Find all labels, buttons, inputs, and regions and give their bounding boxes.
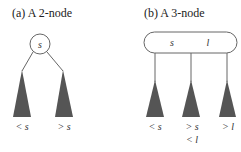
left-edge	[22, 52, 33, 71]
three-node-key-s: s	[170, 37, 174, 48]
left-subtree-triangle	[13, 70, 31, 117]
right-subtree-label: > l	[222, 121, 234, 132]
right-edge	[47, 52, 63, 71]
middle-subtree-triangle	[182, 80, 200, 117]
panel-a-2-node: (a) A 2-node s < s > s	[12, 6, 73, 132]
middle-subtree-label-2: < l	[186, 134, 198, 145]
two-node-key: s	[38, 39, 42, 50]
left-subtree-label: < s	[148, 121, 161, 132]
panel-a-title: (a) A 2-node	[12, 6, 72, 20]
three-node-key-l: l	[207, 37, 210, 48]
panel-b-title: (b) A 3-node	[144, 6, 205, 20]
middle-subtree-label-1: > s	[185, 121, 198, 132]
left-subtree-label: < s	[15, 121, 28, 132]
right-subtree-triangle	[219, 80, 236, 117]
right-subtree-triangle	[55, 70, 73, 117]
left-subtree-triangle	[146, 80, 164, 117]
two-three-tree-diagram: (a) A 2-node s < s > s (b) A 3-node s l …	[0, 0, 241, 152]
right-subtree-label: > s	[57, 121, 70, 132]
panel-b-3-node: (b) A 3-node s l < s > s < l > l	[144, 6, 237, 145]
three-node-rect	[144, 32, 237, 53]
